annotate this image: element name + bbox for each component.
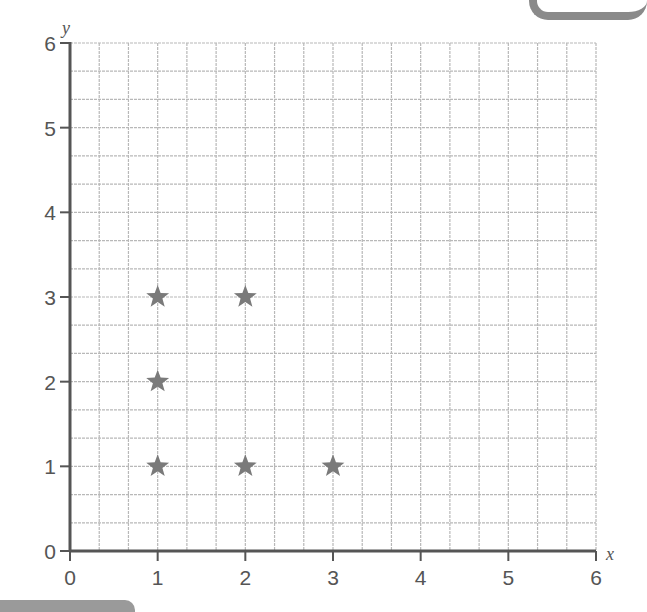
x-tick-label: 2 [239,566,251,589]
y-tick-label: 2 [44,371,56,394]
x-tick-label: 4 [415,566,427,589]
y-axis-title: y [60,18,70,38]
y-tick-label: 5 [44,117,56,140]
y-tick-label: 6 [44,32,56,55]
x-tick-label: 3 [327,566,339,589]
y-tick-label: 0 [44,540,56,563]
x-axis-title: x [605,544,614,564]
y-tick-label: 4 [44,201,56,224]
x-axis-ticks: 0123456 [64,551,602,589]
x-tick-label: 1 [152,566,164,589]
x-tick-label: 0 [64,566,76,589]
x-tick-label: 5 [502,566,514,589]
x-tick-label: 6 [590,566,602,589]
y-tick-label: 3 [44,286,56,309]
y-axis-ticks: 0123456 [44,32,70,563]
grid-lines [70,43,596,551]
y-tick-label: 1 [44,455,56,478]
